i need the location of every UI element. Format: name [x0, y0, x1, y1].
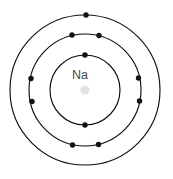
- element-symbol-label: Na: [72, 68, 88, 82]
- electron-dot-shell-l-6: [70, 142, 75, 147]
- atom-diagram-canvas: Na: [0, 0, 173, 179]
- electron-dot-shell-m-1: [83, 12, 88, 17]
- nucleus-core: [80, 85, 89, 94]
- electron-dot-shell-l-5: [96, 142, 101, 147]
- bohr-atom-diagram: Na: [0, 0, 173, 179]
- electron-dot-shell-l-8: [28, 76, 33, 81]
- electron-dot-shell-k-1: [82, 52, 87, 57]
- electron-dot-shell-l-1: [69, 32, 74, 37]
- electron-dot-shell-l-4: [137, 98, 142, 103]
- electron-dot-shell-l-3: [136, 75, 141, 80]
- electron-dot-shell-k-2: [82, 122, 87, 127]
- electron-dot-shell-l-2: [96, 33, 101, 38]
- electron-dot-shell-l-7: [29, 99, 34, 104]
